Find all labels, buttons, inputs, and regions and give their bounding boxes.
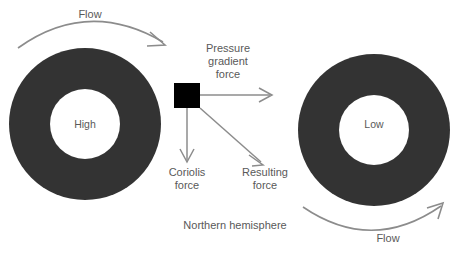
coriolis-line-1: Coriolis	[169, 166, 206, 178]
flow-arc-top	[18, 21, 163, 48]
flow-label-high: Flow	[60, 8, 120, 21]
resulting-line-2: force	[253, 179, 277, 191]
resulting-line-1: Resulting	[242, 166, 288, 178]
low-pressure-label: Low	[344, 118, 404, 131]
high-pressure-label: High	[55, 118, 115, 131]
coriolis-line-2: force	[175, 179, 199, 191]
flow-arrow-counterclockwise-icon	[303, 203, 443, 230]
resulting-force-label: Resultingforce	[232, 166, 298, 192]
coriolis-force-vector	[180, 108, 194, 162]
resulting-force-vector	[200, 108, 263, 166]
pgf-line-1: Pressure	[206, 42, 250, 54]
flow-arrow-clockwise-icon	[18, 21, 165, 48]
pressure-gradient-force-vector	[200, 88, 272, 102]
pressure-gradient-force-label: Pressuregradientforce	[190, 42, 266, 81]
coriolis-force-label: Coriolisforce	[157, 166, 217, 192]
pgf-line-3: force	[216, 68, 240, 80]
air-parcel	[174, 83, 200, 108]
wind-flow-diagram: Flow High Low Flow Pressuregradientforce…	[0, 0, 460, 254]
flow-arc-bottom	[303, 206, 441, 230]
flow-arrowhead-bottom	[427, 203, 443, 219]
flow-label-low: Flow	[358, 232, 418, 245]
resulting-force-line	[200, 108, 261, 162]
pgf-line-2: gradient	[208, 55, 248, 67]
hemisphere-caption: Northern hemisphere	[150, 219, 320, 232]
